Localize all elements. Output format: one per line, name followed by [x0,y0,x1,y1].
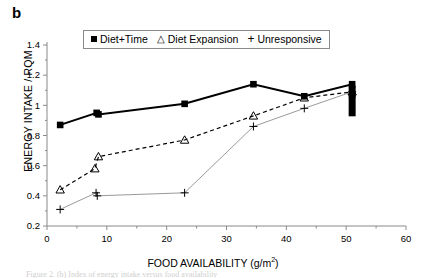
figure-caption: Figure 2. (b) Index of energy intake ver… [26,270,406,278]
marker-square [95,111,102,118]
x-tick-label: 40 [281,233,292,244]
x-tick-label: 20 [161,233,172,244]
y-tick-label: 1.4 [27,39,40,50]
y-tick-label: 0.8 [27,130,40,141]
figure-panel: b Diet+Time △ Diet Expansion + Unrespons… [0,0,426,278]
error-bar [349,86,356,117]
series-line-2 [60,92,352,210]
x-tick-label: 30 [221,233,232,244]
y-tick-label: 0.4 [27,190,40,201]
x-tick-label: 50 [341,233,352,244]
series-layer [56,81,356,213]
marker-square [181,101,188,108]
marker-triangle [249,112,257,119]
x-tick-label: 10 [102,233,113,244]
x-tick-label: 60 [401,233,412,244]
marker-square [57,122,64,129]
y-tick-label: 1.2 [27,69,40,80]
y-tick-label: 0.6 [27,160,40,171]
axes-layer [43,42,406,230]
chart-canvas: 0.20.40.60.811.21.40102030405060 [0,0,426,278]
x-tick-label: 0 [44,233,49,244]
series-line-0 [60,84,352,125]
y-tick-label: 0.2 [27,220,40,231]
y-tick-label: 1 [35,100,40,111]
marker-square [250,81,257,88]
tick-label-layer: 0.20.40.60.811.21.40102030405060 [27,39,412,244]
